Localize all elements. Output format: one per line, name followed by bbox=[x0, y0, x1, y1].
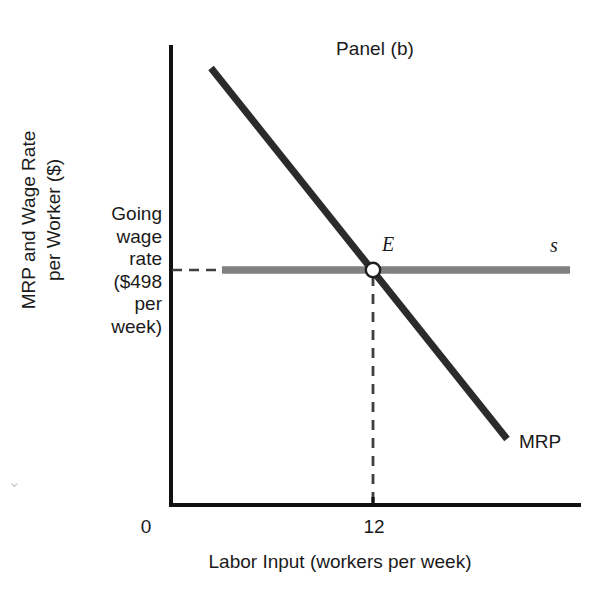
mrp-curve bbox=[211, 68, 507, 439]
going-wage-annotation: Going wage rate ($498 per week) bbox=[34, 203, 162, 338]
supply-curve-label: s bbox=[550, 234, 558, 257]
economics-figure-panel-b: Panel (b) MRP and Wage Rate per Worker (… bbox=[0, 0, 611, 600]
x-tick-label-origin: 0 bbox=[131, 516, 161, 538]
scan-artifact-mark: ⌄ bbox=[8, 473, 21, 491]
going-wage-line-2: wage bbox=[34, 226, 162, 249]
equilibrium-point-marker bbox=[366, 263, 380, 277]
going-wage-line-6: week) bbox=[34, 316, 162, 339]
mrp-curve-label: MRP bbox=[519, 431, 561, 453]
going-wage-line-4: ($498 bbox=[34, 271, 162, 294]
equilibrium-point-label: E bbox=[382, 233, 394, 256]
going-wage-line-5: per bbox=[34, 293, 162, 316]
going-wage-line-1: Going bbox=[34, 203, 162, 226]
going-wage-line-3: rate bbox=[34, 248, 162, 271]
panel-title: Panel (b) bbox=[245, 38, 505, 60]
x-axis-label: Labor Input (workers per week) bbox=[120, 551, 560, 573]
x-tick-label-equilibrium: 12 bbox=[356, 516, 392, 538]
